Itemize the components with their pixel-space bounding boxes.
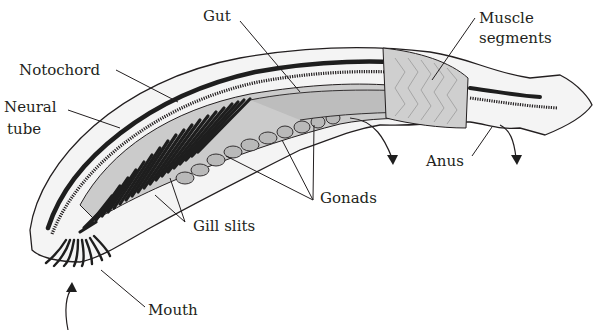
lancelet-illustration (0, 0, 596, 333)
label-anus: Anus (426, 153, 464, 170)
label-neural-line2: tube (7, 121, 41, 138)
label-muscle-line1: Muscle (479, 10, 534, 27)
lancelet-diagram: Gut Muscle segments Notochord Neural tub… (0, 0, 596, 333)
body-outline (30, 47, 592, 262)
label-gut: Gut (203, 8, 231, 25)
label-notochord: Notochord (19, 62, 100, 79)
label-gonads: Gonads (320, 190, 377, 207)
label-gill-slits: Gill slits (193, 218, 255, 235)
label-muscle-line2: segments (479, 30, 552, 47)
label-mouth: Mouth (148, 302, 198, 319)
label-neural-line1: Neural (4, 99, 57, 116)
